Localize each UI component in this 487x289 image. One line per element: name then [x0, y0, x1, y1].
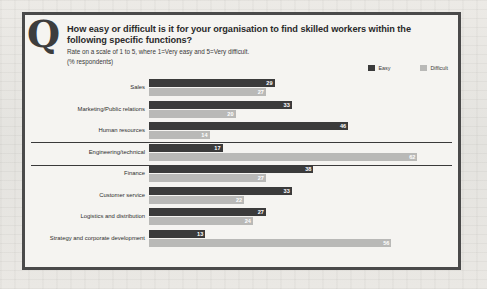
bar-value-label: 27	[258, 208, 266, 216]
bar-value-label: 24	[245, 217, 253, 225]
bar-difficult: 22	[149, 196, 244, 204]
chart-row-label: Strategy and corporate development	[31, 235, 149, 242]
chart-row-bars: 1762	[149, 143, 452, 162]
chart-row: Customer service3322	[31, 185, 452, 207]
bar-difficult: 14	[149, 131, 210, 139]
page-title: How easy or difficult is it for your org…	[67, 24, 450, 45]
bar-difficult: 56	[149, 239, 391, 247]
bar-easy: 33	[149, 101, 292, 109]
chart-row-label: Sales	[31, 84, 149, 91]
chart-row-bars: 1356	[149, 229, 452, 248]
chart-row-bars: 3827	[149, 164, 452, 183]
bar-value-label: 29	[266, 79, 274, 87]
legend-item-difficult: Difficult	[420, 65, 448, 71]
chart-row-label: Engineering/technical	[31, 149, 149, 156]
bar-value-label: 27	[258, 174, 266, 182]
chart-row: Human resources4614	[31, 120, 452, 142]
legend-label-difficult: Difficult	[430, 65, 448, 71]
bar-chart: Sales2927Marketing/Public relations3320H…	[31, 77, 452, 263]
bar-value-label: 62	[409, 153, 417, 161]
chart-rows: Sales2927Marketing/Public relations3320H…	[31, 77, 452, 249]
rating-scale-note: Rate on a scale of 1 to 5, where 1=Very …	[67, 48, 450, 56]
bar-difficult: 62	[149, 153, 417, 161]
chart-row-label: Customer service	[31, 192, 149, 199]
chart-row: Logistics and distribution2724	[31, 206, 452, 228]
bar-value-label: 20	[227, 110, 235, 118]
chart-row: Marketing/Public relations3320	[31, 99, 452, 121]
bar-difficult: 24	[149, 217, 253, 225]
chart-row-bars: 4614	[149, 121, 452, 140]
chart-row-label: Marketing/Public relations	[31, 106, 149, 113]
chart-row: Finance3827	[31, 163, 452, 185]
chart-legend: Easy Difficult	[368, 65, 448, 71]
bar-easy: 17	[149, 144, 223, 152]
bar-value-label: 56	[383, 239, 391, 247]
chart-row: Sales2927	[31, 77, 452, 99]
legend-item-easy: Easy	[368, 65, 390, 71]
legend-swatch-easy-icon	[368, 65, 375, 71]
card-header: How easy or difficult is it for your org…	[67, 21, 450, 66]
question-card: Q How easy or difficult is it for your o…	[22, 12, 461, 270]
chart-row-bars: 2724	[149, 207, 452, 226]
bar-value-label: 22	[236, 196, 244, 204]
chart-row-label: Human resources	[31, 127, 149, 134]
bar-value-label: 13	[197, 230, 205, 238]
chart-row-bars: 3322	[149, 186, 452, 205]
legend-swatch-difficult-icon	[420, 65, 427, 71]
bar-value-label: 38	[305, 165, 313, 173]
chart-row-bars: 2927	[149, 78, 452, 97]
chart-row-bars: 3320	[149, 100, 452, 119]
question-marker: Q	[27, 17, 57, 51]
bar-easy: 46	[149, 122, 348, 130]
bar-value-label: 46	[340, 122, 348, 130]
bar-difficult: 27	[149, 174, 266, 182]
chart-row-label: Logistics and distribution	[31, 213, 149, 220]
bar-easy: 38	[149, 165, 313, 173]
bar-difficult: 27	[149, 88, 266, 96]
bar-easy: 27	[149, 208, 266, 216]
bar-value-label: 14	[201, 131, 209, 139]
legend-label-easy: Easy	[378, 65, 390, 71]
bar-value-label: 27	[258, 88, 266, 96]
bar-value-label: 33	[284, 101, 292, 109]
bar-easy: 33	[149, 187, 292, 195]
chart-row: Strategy and corporate development1356	[31, 228, 452, 250]
bar-value-label: 33	[284, 187, 292, 195]
chart-row-label: Finance	[31, 170, 149, 177]
bar-difficult: 20	[149, 110, 236, 118]
bar-easy: 29	[149, 79, 275, 87]
bar-easy: 13	[149, 230, 205, 238]
bar-value-label: 17	[214, 144, 222, 152]
chart-row: Engineering/technical1762	[31, 142, 452, 164]
